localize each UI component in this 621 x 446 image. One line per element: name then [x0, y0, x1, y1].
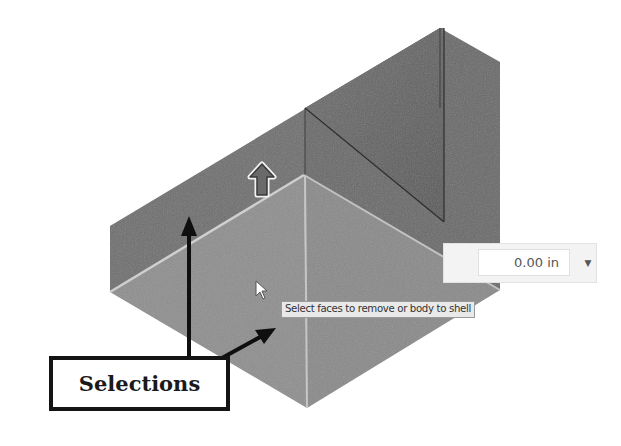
callout-label: Selections — [79, 371, 200, 396]
thickness-input-panel: 0.00 in ▼ — [443, 243, 597, 283]
thickness-input[interactable]: 0.00 in — [478, 249, 570, 276]
chevron-down-icon[interactable]: ▼ — [582, 256, 594, 270]
selection-tooltip: Select faces to remove or body to shell — [281, 301, 475, 318]
pointer-cursor-icon — [255, 280, 271, 302]
selections-callout: Selections — [49, 356, 230, 411]
cad-viewport[interactable]: 0.00 in ▼ Select faces to remove or body… — [0, 0, 621, 446]
